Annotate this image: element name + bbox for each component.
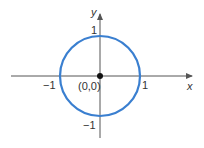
tick-x-pos: 1 — [142, 79, 148, 91]
tick-y-neg: −1 — [83, 119, 96, 131]
tick-y-pos: 1 — [91, 24, 97, 36]
x-axis-label: x — [186, 80, 193, 92]
unit-circle-plot: y x 1 −1 −1 1 (0,0) — [0, 0, 204, 148]
origin-label: (0,0) — [78, 80, 101, 92]
origin-point — [97, 73, 103, 79]
y-axis-label: y — [90, 6, 98, 18]
tick-x-neg: −1 — [43, 79, 56, 91]
